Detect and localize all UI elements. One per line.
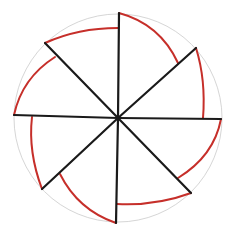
arc-bottom-left bbox=[60, 174, 116, 223]
spoke-right bbox=[118, 118, 221, 119]
spoke-bottom-right bbox=[118, 118, 191, 193]
arc-left-upper bbox=[14, 57, 55, 115]
spoke-bottom-left bbox=[42, 118, 118, 189]
spoke-top-left bbox=[45, 43, 118, 118]
spoke-left bbox=[14, 115, 118, 118]
diagram-canvas bbox=[0, 0, 233, 238]
arc-top-right bbox=[119, 13, 178, 63]
spoke-top-right bbox=[118, 48, 196, 118]
spoke-top bbox=[118, 13, 119, 118]
pinwheel-diagram bbox=[0, 0, 233, 238]
arc-bottom-right bbox=[117, 193, 191, 204]
spoke-bottom bbox=[116, 118, 118, 223]
arc-top-left bbox=[45, 28, 118, 43]
arc-right-lower bbox=[178, 119, 221, 178]
arc-right-upper bbox=[196, 48, 204, 118]
